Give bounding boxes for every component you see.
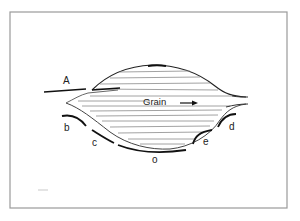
embryo-line [92, 88, 120, 90]
grain-upper-outline [92, 65, 246, 97]
label-a: A [63, 75, 70, 86]
label-d: d [229, 121, 235, 132]
grain-arrow-head [192, 101, 198, 106]
label-b: b [64, 122, 70, 133]
label-c: c [92, 137, 97, 148]
label-e: e [203, 136, 209, 147]
label-o: o [152, 154, 158, 165]
diagram-canvas: A b c o e d Grain [0, 0, 300, 221]
label-grain: Grain [143, 96, 166, 107]
label-a-pointer [44, 89, 86, 92]
figure-border [10, 12, 287, 208]
grain-top-mark [148, 65, 166, 66]
grain-diagram: A b c o e d Grain [0, 0, 300, 221]
